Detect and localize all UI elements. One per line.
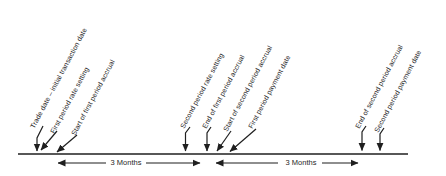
arrow-end-first-accrual <box>207 127 211 151</box>
arrow-second-rate-setting <box>186 127 191 151</box>
arrow-first-payment-date <box>230 129 256 152</box>
interval2-label: 3 Months <box>284 159 319 167</box>
arrow-trade-date <box>37 126 43 151</box>
arrow-start-second-accrual <box>217 131 231 151</box>
arrow-start-first-accrual <box>57 135 77 152</box>
arrow-end-second-accrual <box>362 126 366 151</box>
swap-timeline-diagram: Trade date – initial transaction date Fi… <box>0 0 446 176</box>
interval1-label: 3 Months <box>109 159 144 167</box>
